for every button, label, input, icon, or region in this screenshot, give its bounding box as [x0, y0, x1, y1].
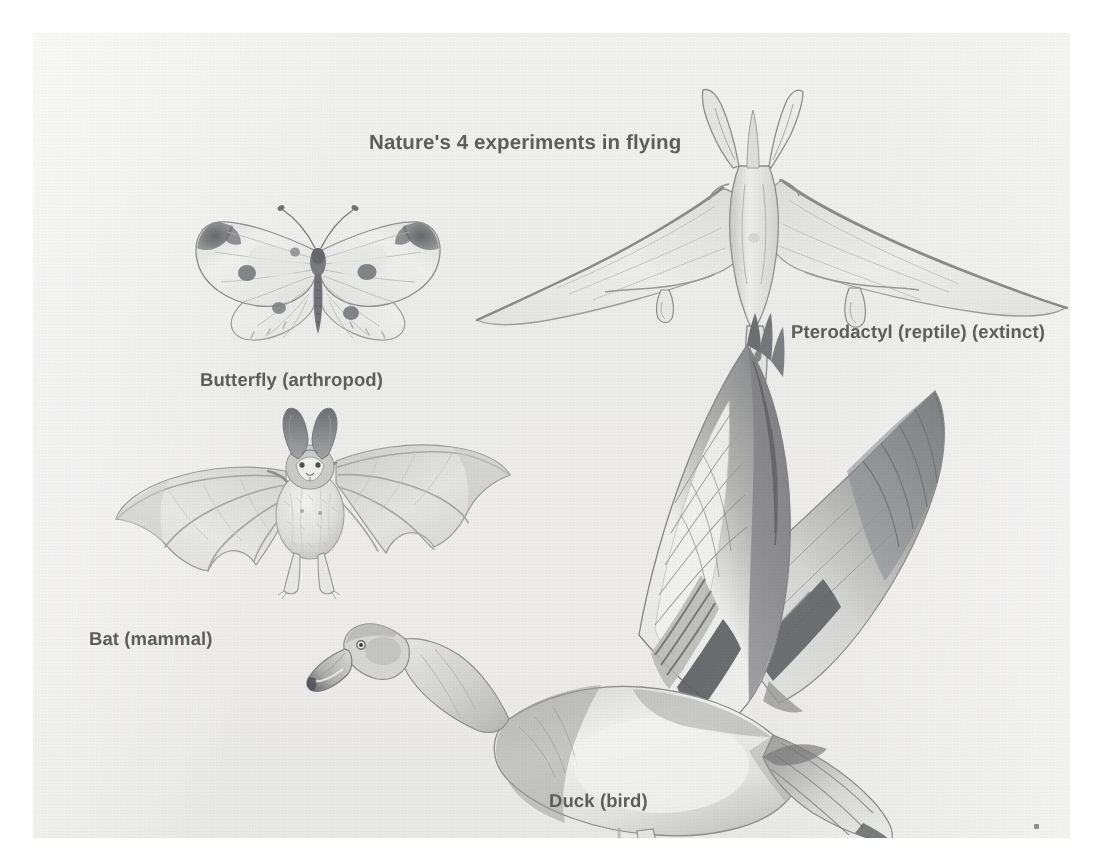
- pterodactyl-label: Pterodactyl (reptile) (extinct): [791, 321, 1045, 343]
- plate-title: Nature's 4 experiments in flying: [369, 131, 681, 155]
- illustration-plate: Nature's 4 experiments in flying Butterf…: [33, 33, 1070, 838]
- bat-label: Bat (mammal): [89, 628, 213, 650]
- illustration-page: Nature's 4 experiments in flying Butterf…: [0, 0, 1100, 868]
- duck-illustration: [303, 283, 983, 838]
- duck-label: Duck (bird): [549, 790, 648, 812]
- butterfly-label: Butterfly (arthropod): [200, 369, 383, 391]
- print-speck: [1034, 824, 1039, 829]
